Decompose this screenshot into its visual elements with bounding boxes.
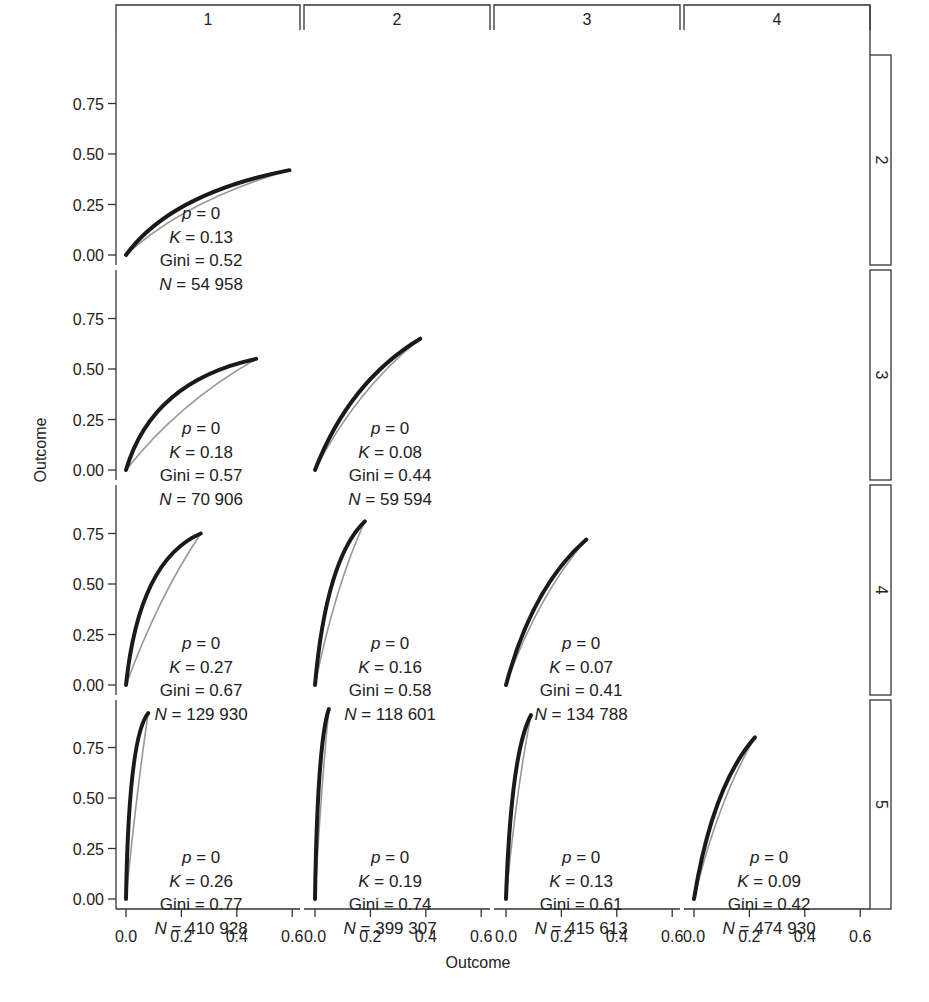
y-tick-label: 0.00 <box>73 247 104 264</box>
panel-annotation: Gini = 0.58 <box>349 681 432 700</box>
panel-r1-c1: p = 0K = 0.13Gini = 0.52N = 54 958 <box>126 170 289 293</box>
observed-curve <box>506 715 531 899</box>
y-tick-label: 0.00 <box>73 891 104 908</box>
panel-annotation: Gini = 0.67 <box>160 681 243 700</box>
row-strip-label: 3 <box>873 371 890 380</box>
column-strip-2: 2 <box>304 5 490 30</box>
panel-annotation: Gini = 0.44 <box>349 466 432 485</box>
row-strips: 2345 <box>870 55 891 909</box>
row-strip-5: 5 <box>870 700 891 909</box>
panel-annotation: p = 0 <box>181 204 220 223</box>
x-tick-label: 0.0 <box>115 928 137 945</box>
panel-annotation: N = 118 601 <box>344 705 436 724</box>
panels: p = 0K = 0.13Gini = 0.52N = 54 958p = 0K… <box>126 170 816 937</box>
panel-annotation: p = 0 <box>561 634 600 653</box>
y-tick-label: 0.75 <box>73 311 104 328</box>
panel-annotation: N = 54 958 <box>159 275 243 294</box>
column-strip-3: 3 <box>494 5 680 30</box>
panel-annotation: K = 0.09 <box>737 872 801 891</box>
panel-annotation: N = 134 788 <box>535 705 628 724</box>
panel-annotation: N = 410 928 <box>155 919 248 938</box>
y-tick-label: 0.00 <box>73 677 104 694</box>
panel-r2-c2: p = 0K = 0.08Gini = 0.44N = 59 594 <box>315 339 432 509</box>
column-strip-label: 3 <box>583 11 592 28</box>
row-strip-label: 5 <box>873 800 890 809</box>
panel-annotation: p = 0 <box>370 848 409 867</box>
y-tick-label: 0.50 <box>73 576 104 593</box>
y-tick-label: 0.25 <box>73 841 104 858</box>
panel-annotation: K = 0.13 <box>549 872 613 891</box>
y-tick-label: 0.50 <box>73 146 104 163</box>
panel-annotation: N = 70 906 <box>159 490 243 509</box>
column-strip-label: 1 <box>204 11 213 28</box>
x-tick-label: 0.6 <box>661 928 683 945</box>
column-strips: 1234 <box>116 5 870 30</box>
panel-r3-c2: p = 0K = 0.16Gini = 0.58N = 118 601 <box>315 521 436 723</box>
y-tick-label: 0.25 <box>73 197 104 214</box>
panel-annotation: N = 59 594 <box>348 490 432 509</box>
panel-r4-c1: p = 0K = 0.26Gini = 0.77N = 410 928 <box>126 713 248 937</box>
column-strip-1: 1 <box>116 5 300 30</box>
panel-r3-c3: p = 0K = 0.07Gini = 0.41N = 134 788 <box>506 540 628 724</box>
panel-annotation: N = 129 930 <box>155 705 248 724</box>
y-tick-label: 0.75 <box>73 740 104 757</box>
row-strip-label: 2 <box>873 156 890 165</box>
panel-r2-c1: p = 0K = 0.18Gini = 0.57N = 70 906 <box>126 359 256 509</box>
panel-annotation: K = 0.07 <box>549 658 613 677</box>
panel-annotation: p = 0 <box>181 634 220 653</box>
faceted-curve-chart: 1234 2345 0.000.250.500.750.000.250.500.… <box>0 0 929 1002</box>
panel-annotation: K = 0.27 <box>169 658 233 677</box>
y-tick-label: 0.50 <box>73 361 104 378</box>
x-axis-title: Outcome <box>446 954 511 971</box>
x-tick-label: 0.6 <box>281 928 303 945</box>
panel-annotation: Gini = 0.74 <box>349 895 432 914</box>
panel-annotation: p = 0 <box>370 634 409 653</box>
panel-annotation: p = 0 <box>181 848 220 867</box>
row-strip-3: 3 <box>870 270 891 480</box>
panel-annotation: K = 0.19 <box>358 872 422 891</box>
x-tick-label: 0.0 <box>304 928 326 945</box>
x-tick-label: 0.0 <box>495 928 517 945</box>
panel-r4-c4: p = 0K = 0.09Gini = 0.42N = 474 930 <box>694 737 816 937</box>
panel-annotation: K = 0.08 <box>358 443 422 462</box>
x-tick-label: 0.0 <box>683 928 705 945</box>
panel-annotation: K = 0.13 <box>169 228 233 247</box>
column-strip-4: 4 <box>684 5 870 30</box>
panel-annotation: N = 474 930 <box>723 919 816 938</box>
panel-annotation: Gini = 0.52 <box>160 251 243 270</box>
panel-annotation: p = 0 <box>370 419 409 438</box>
row-strip-4: 4 <box>870 485 891 695</box>
y-tick-label: 0.50 <box>73 790 104 807</box>
row-strip-label: 4 <box>873 586 890 595</box>
panel-r3-c1: p = 0K = 0.27Gini = 0.67N = 129 930 <box>126 534 248 724</box>
panel-annotation: p = 0 <box>561 848 600 867</box>
panel-annotation: p = 0 <box>749 848 788 867</box>
column-strip-label: 2 <box>393 11 402 28</box>
panel-annotation: Gini = 0.61 <box>540 895 623 914</box>
y-axis-title: Outcome <box>32 417 49 482</box>
panel-annotation: Gini = 0.41 <box>540 681 623 700</box>
column-strip-label: 4 <box>773 11 782 28</box>
panel-annotation: K = 0.26 <box>169 872 233 891</box>
panel-annotation: N = 415 613 <box>535 919 628 938</box>
panel-annotation: N = 399 307 <box>344 919 437 938</box>
panel-r4-c2: p = 0K = 0.19Gini = 0.74N = 399 307 <box>315 709 437 937</box>
panel-annotation: Gini = 0.42 <box>728 895 811 914</box>
panel-annotation: p = 0 <box>181 419 220 438</box>
row-strip-2: 2 <box>870 55 891 265</box>
x-tick-label: 0.6 <box>470 928 492 945</box>
y-tick-label: 0.75 <box>73 96 104 113</box>
panel-annotation: K = 0.18 <box>169 443 233 462</box>
panel-r4-c3: p = 0K = 0.13Gini = 0.61N = 415 613 <box>506 715 628 937</box>
y-tick-label: 0.00 <box>73 462 104 479</box>
x-tick-label: 0.6 <box>849 928 871 945</box>
panel-annotation: Gini = 0.57 <box>160 466 243 485</box>
y-tick-label: 0.75 <box>73 526 104 543</box>
panel-annotation: K = 0.16 <box>358 658 422 677</box>
panel-annotation: Gini = 0.77 <box>160 895 243 914</box>
y-tick-label: 0.25 <box>73 627 104 644</box>
y-tick-label: 0.25 <box>73 412 104 429</box>
